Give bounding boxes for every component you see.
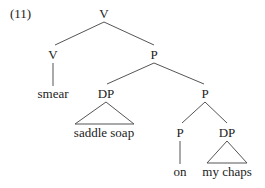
leaf-saddle-soap: saddle soap (74, 126, 134, 140)
leaf-my-chaps: my chaps (202, 165, 251, 179)
node-dp-object: DP (219, 126, 236, 140)
node-root-v: V (99, 7, 108, 21)
node-v: V (48, 48, 57, 62)
node-p-bar: P (201, 87, 208, 101)
example-number: (11) (10, 7, 31, 21)
node-dp: DP (98, 87, 115, 101)
node-p: P (150, 48, 157, 62)
node-p-head: P (176, 126, 183, 140)
leaf-smear: smear (37, 87, 68, 101)
leaf-on: on (174, 165, 187, 179)
